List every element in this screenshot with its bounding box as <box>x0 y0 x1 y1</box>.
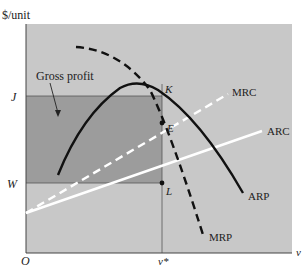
v-star-label: v* <box>158 255 169 267</box>
point-e-label: E <box>166 122 174 134</box>
point-e <box>160 121 165 126</box>
point-l <box>160 181 165 186</box>
gross-profit-region <box>26 96 162 183</box>
point-k-label: K <box>164 83 173 95</box>
x-axis-label: v <box>296 246 301 258</box>
economics-diagram: $/unit Gross profit J W O v* v K E L MRC… <box>0 0 307 277</box>
y-axis-label: $/unit <box>2 8 31 22</box>
j-label: J <box>11 90 17 104</box>
gross-profit-label: Gross profit <box>36 69 94 83</box>
arc-label: ARC <box>267 125 290 137</box>
mrc-label: MRC <box>232 86 256 98</box>
w-label: W <box>7 177 18 191</box>
arp-label: ARP <box>248 190 269 202</box>
point-l-label: L <box>165 185 172 197</box>
origin-label: O <box>21 254 30 268</box>
mrp-label: MRP <box>209 231 232 243</box>
